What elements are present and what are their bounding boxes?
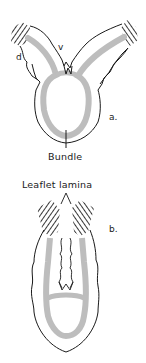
inner-wavy-margin-left (59, 238, 62, 288)
dorsal-label: d (16, 53, 22, 62)
inner-wavy-margin-right (70, 238, 73, 288)
bundle-label: Bundle (48, 152, 82, 162)
right-tip-hatch (121, 20, 138, 46)
left-lamina-hatch (37, 200, 60, 236)
right-wavy-edge (100, 48, 128, 84)
leaflet-lamina-label: Leaflet lamina (22, 180, 92, 190)
panel-b-cross-section (31, 193, 98, 352)
leaflet-lamina-leader (61, 193, 71, 204)
vascular-band-b (46, 238, 86, 336)
ventral-label: v (58, 43, 63, 52)
left-tip-hatch (11, 22, 30, 46)
panel-b-label: b. (109, 225, 118, 234)
panel-a-cross-section (11, 20, 138, 148)
panel-a-label: a. (109, 113, 117, 122)
